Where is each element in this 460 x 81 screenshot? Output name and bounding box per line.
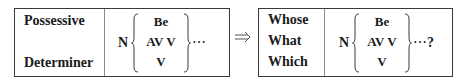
- label-possessive: Possessive: [24, 13, 85, 29]
- noun-symbol: N: [118, 35, 128, 51]
- double-arrow-icon: [235, 31, 251, 43]
- option-av-v: AV V: [139, 32, 183, 52]
- noun-symbol: N: [339, 35, 349, 51]
- option-be: Be: [139, 12, 183, 32]
- label-which: Which: [268, 54, 308, 70]
- option-stack: Be AV V V: [360, 12, 404, 72]
- label-determiner: Determiner: [24, 55, 93, 71]
- right-pattern-box: Whose What Which N Be AV V V ⋯?: [258, 8, 453, 77]
- label-whose: Whose: [268, 12, 308, 28]
- left-pattern-box: Possessive Determiner N Be AV V V ⋯: [14, 8, 230, 77]
- option-v: V: [139, 52, 183, 72]
- option-v: V: [360, 52, 404, 72]
- column-divider: [324, 9, 325, 76]
- left-formula: N Be AV V V ⋯: [115, 9, 225, 76]
- option-stack: Be AV V V: [139, 12, 183, 72]
- right-brace-icon: [183, 13, 191, 73]
- ellipsis-question: ⋯?: [413, 34, 434, 51]
- label-what: What: [268, 33, 301, 49]
- left-brace-icon: [352, 13, 360, 73]
- left-brace-icon: [131, 13, 139, 73]
- ellipsis: ⋯: [192, 34, 206, 51]
- column-divider: [104, 9, 105, 76]
- question-mark: ?: [427, 35, 434, 50]
- right-formula: N Be AV V V ⋯?: [339, 9, 451, 76]
- right-brace-icon: [404, 13, 412, 73]
- ellipsis: ⋯: [413, 35, 427, 50]
- option-av-v: AV V: [360, 32, 404, 52]
- option-be: Be: [360, 12, 404, 32]
